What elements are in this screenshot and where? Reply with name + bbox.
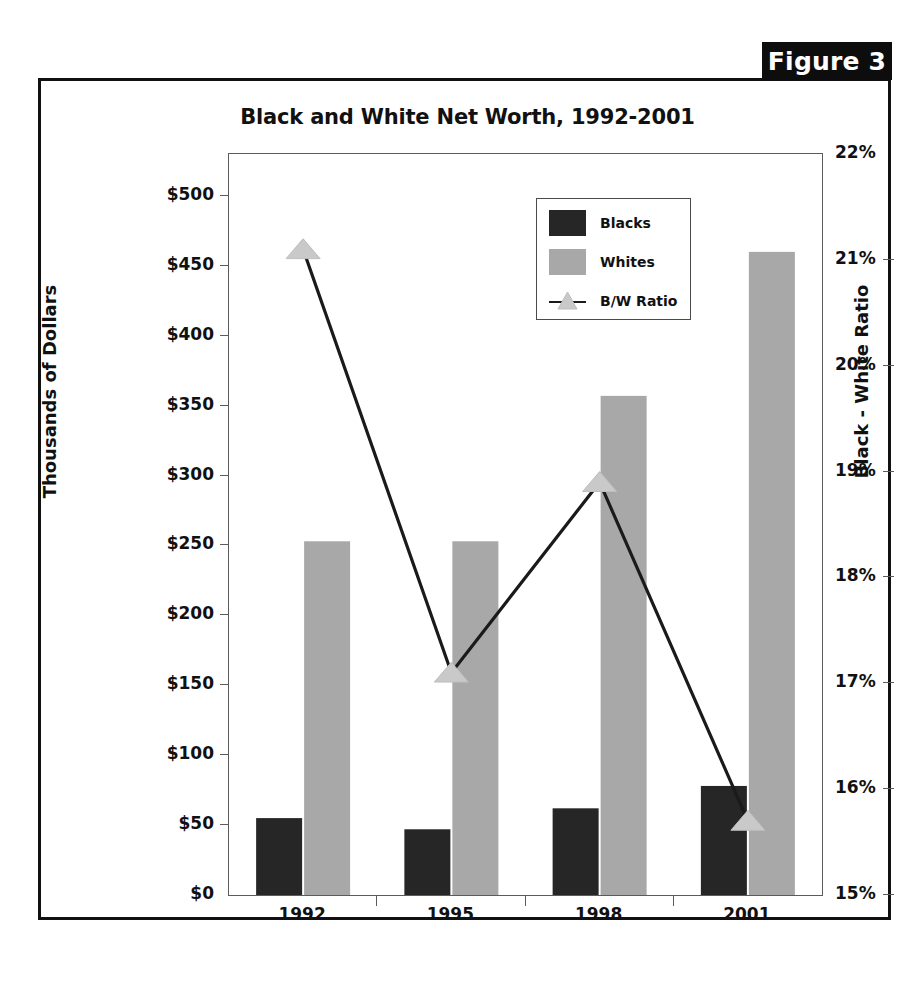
y-tick-label-left-$50: $50 — [124, 813, 214, 833]
y-tick-label-left-$450: $450 — [124, 254, 214, 274]
plot-area: BlacksWhitesB/W Ratio — [228, 153, 823, 896]
figure-frame: Black and White Net Worth, 1992-2001 Tho… — [38, 78, 891, 920]
ratio-marker-1992 — [286, 239, 320, 259]
y-tick-mark-left — [220, 335, 229, 336]
y-tick-label-right-18%: 18% — [835, 565, 905, 585]
bar-blacks-1992 — [256, 818, 302, 895]
legend-line-marker-icon — [549, 288, 586, 314]
y-tick-mark-left — [220, 475, 229, 476]
legend-label-blacks: Blacks — [600, 215, 651, 231]
y-tick-label-left-$400: $400 — [124, 324, 214, 344]
bar-blacks-1995 — [404, 829, 450, 895]
y-tick-label-right-21%: 21% — [835, 248, 905, 268]
x-tick-label-2001: 2001 — [692, 904, 802, 924]
bar-whites-2001 — [749, 252, 795, 895]
y-tick-label-right-17%: 17% — [835, 671, 905, 691]
legend-label-whites: Whites — [600, 254, 655, 270]
x-tick-label-1995: 1995 — [395, 904, 505, 924]
legend-label-b-w-ratio: B/W Ratio — [600, 293, 677, 309]
y-tick-label-left-$250: $250 — [124, 533, 214, 553]
legend-item-b-w-ratio: B/W Ratio — [537, 281, 692, 321]
y-axis-title-left: Thousands of Dollars — [39, 232, 60, 552]
legend-item-whites: Whites — [537, 242, 692, 282]
y-tick-mark-left — [220, 265, 229, 266]
y-axis-title-right: Black - White Ratio — [851, 222, 872, 542]
y-tick-mark-right — [883, 365, 894, 366]
y-tick-mark-right — [883, 788, 894, 789]
chart-title: Black and White Net Worth, 1992-2001 — [41, 105, 894, 129]
legend-item-blacks: Blacks — [537, 203, 692, 243]
x-tick-mark — [525, 895, 526, 906]
y-tick-label-left-$150: $150 — [124, 673, 214, 693]
x-tick-label-1992: 1992 — [247, 904, 357, 924]
figure-number-badge: Figure 3 — [762, 42, 892, 80]
figure-root: Figure 3 Black and White Net Worth, 1992… — [0, 0, 909, 998]
y-tick-mark-right — [883, 259, 894, 260]
y-tick-mark-right — [883, 894, 894, 895]
chart-canvas — [229, 154, 822, 895]
x-tick-label-1998: 1998 — [544, 904, 654, 924]
bar-whites-1998 — [601, 396, 647, 895]
ratio-line — [303, 249, 748, 821]
y-tick-mark-left — [220, 195, 229, 196]
y-tick-label-left-$0: $0 — [124, 883, 214, 903]
y-tick-mark-left — [220, 824, 229, 825]
legend-swatch-whites — [549, 249, 586, 275]
y-tick-mark-left — [220, 754, 229, 755]
y-tick-mark-right — [883, 682, 894, 683]
bar-whites-1992 — [304, 541, 350, 895]
y-tick-label-right-16%: 16% — [835, 777, 905, 797]
legend-swatch-blacks — [549, 210, 586, 236]
bar-blacks-1998 — [553, 808, 599, 895]
y-tick-label-left-$100: $100 — [124, 743, 214, 763]
y-tick-mark-left — [220, 614, 229, 615]
x-tick-mark — [376, 895, 377, 906]
y-tick-label-right-15%: 15% — [835, 883, 905, 903]
y-tick-mark-left — [220, 544, 229, 545]
y-tick-label-left-$200: $200 — [124, 603, 214, 623]
y-tick-label-left-$350: $350 — [124, 394, 214, 414]
y-tick-mark-left — [220, 684, 229, 685]
x-tick-mark — [673, 895, 674, 906]
y-tick-mark-left — [220, 405, 229, 406]
chart-legend: BlacksWhitesB/W Ratio — [536, 198, 691, 320]
y-tick-mark-right — [883, 471, 894, 472]
bar-whites-1995 — [452, 541, 498, 895]
y-tick-label-left-$500: $500 — [124, 184, 214, 204]
y-tick-mark-right — [883, 576, 894, 577]
y-tick-label-left-$300: $300 — [124, 464, 214, 484]
y-tick-label-right-22%: 22% — [835, 142, 905, 162]
y-tick-label-right-20%: 20% — [835, 354, 905, 374]
y-tick-label-right-19%: 19% — [835, 460, 905, 480]
